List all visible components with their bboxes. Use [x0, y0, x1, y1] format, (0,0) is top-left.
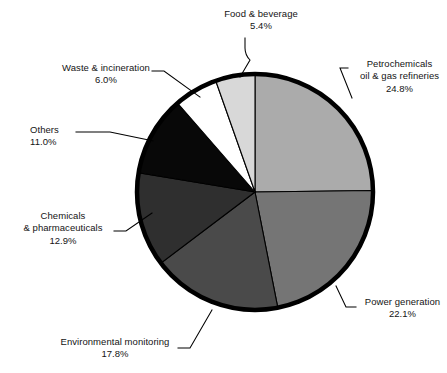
slice-label-petrochemicals-percent: 24.8% — [352, 83, 447, 95]
slice-label-food-beverage-percent: 5.4% — [198, 20, 324, 32]
slice-label-waste-incineration: Waste & incineration 6.0% — [50, 62, 162, 87]
slice-label-food-beverage: Food & beverage 5.4% — [198, 8, 324, 33]
slice-label-power-generation-percent: 22.1% — [358, 308, 447, 320]
leader-line-food-beverage — [240, 38, 250, 77]
slice-label-environmental-monitoring-name: Environmental monitoring — [44, 336, 186, 348]
slice-label-waste-incineration-name: Waste & incineration — [50, 62, 162, 74]
slice-label-food-beverage-name: Food & beverage — [198, 8, 324, 20]
leader-line-power-generation — [336, 286, 356, 307]
slice-label-chemicals-name2: & pharmaceuticals — [8, 222, 118, 234]
slice-label-power-generation-name: Power generation — [358, 296, 447, 308]
slice-label-others: Others 11.0% — [30, 124, 92, 149]
slice-label-petrochemicals-name: Petrochemicals — [352, 58, 447, 70]
slice-label-chemicals-pharmaceuticals: Chemicals & pharmaceuticals 12.9% — [8, 210, 118, 247]
slice-label-environmental-monitoring-percent: 17.8% — [44, 348, 186, 360]
slice-label-waste-incineration-percent: 6.0% — [50, 74, 162, 86]
slice-label-petrochemicals-name2: oil & gas refineries — [352, 70, 447, 82]
slice-label-environmental-monitoring: Environmental monitoring 17.8% — [44, 336, 186, 361]
leader-line-petrochemicals — [340, 68, 352, 98]
slice-label-power-generation: Power generation 22.1% — [358, 296, 447, 321]
slice-label-others-percent: 11.0% — [30, 136, 92, 148]
slice-label-petrochemicals: Petrochemicals oil & gas refineries 24.8… — [352, 58, 447, 95]
slice-label-chemicals-percent: 12.9% — [8, 235, 118, 247]
slice-label-others-name: Others — [30, 124, 92, 136]
slice-label-chemicals-name: Chemicals — [8, 210, 118, 222]
pie-chart: Food & beverage 5.4% Petrochemicals oil … — [0, 0, 447, 373]
